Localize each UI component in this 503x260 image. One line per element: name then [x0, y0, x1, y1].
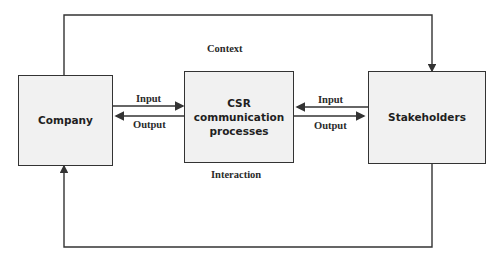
diagram-canvas: Company CSR communication processes Stak… [0, 0, 503, 260]
company-label: Company [38, 113, 93, 127]
left-output-label: Output [133, 119, 166, 130]
stakeholders-box: Stakeholders [368, 71, 486, 164]
right-output-label: Output [314, 120, 347, 131]
csr-label: CSR communication processes [193, 96, 285, 139]
interaction-label: Interaction [211, 169, 261, 180]
csr-communication-box: CSR communication processes [184, 71, 294, 163]
context-arrow [64, 15, 432, 76]
context-label: Context [207, 43, 243, 54]
left-input-label: Input [136, 93, 161, 104]
company-box: Company [18, 75, 113, 166]
stakeholders-label: Stakeholders [388, 110, 466, 124]
right-input-label: Input [318, 94, 343, 105]
